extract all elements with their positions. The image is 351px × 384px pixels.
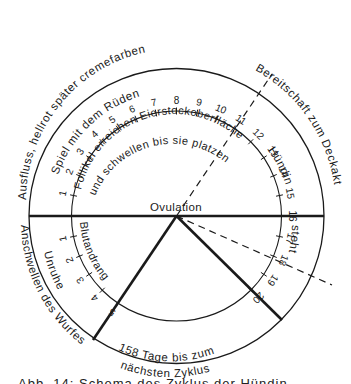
- wedge-line-right: [177, 216, 283, 320]
- tick-mark: [70, 236, 77, 237]
- tick-label: 8: [174, 95, 180, 106]
- label-mating-readiness: Bereitschaft zum Deckakt: [254, 61, 344, 186]
- tick-mark: [276, 195, 283, 196]
- tick-mark: [70, 195, 77, 196]
- tick-mark: [261, 156, 267, 160]
- tick-mark: [276, 236, 283, 237]
- label-blood-congestion: Blutandrang: [78, 221, 112, 282]
- tick-label: 4: [88, 292, 100, 304]
- tick-mark: [261, 272, 267, 276]
- estrous-cycle-diagram: 123456789101112131415161234517181920 Aus…: [0, 0, 351, 384]
- dashed-line-lower: [177, 216, 333, 285]
- tick-label: 15: [284, 187, 297, 200]
- tick-label: 19: [265, 273, 281, 289]
- figure-caption: Abb. 14: Schema des Zyklus der Hündin: [18, 377, 348, 384]
- label-next-cycle-line1: 158 Tage bis zum: [117, 341, 216, 364]
- tick-label: 3: [74, 275, 86, 286]
- tick-label: 2: [63, 167, 75, 177]
- label-bitch: Hündin: [266, 144, 295, 186]
- tick-label: 1: [57, 189, 69, 197]
- tick-label: 1: [57, 234, 69, 242]
- tick-label: 2: [63, 255, 75, 265]
- tick-label: 4: [89, 128, 101, 140]
- ovulation-label: Ovulation: [150, 201, 202, 213]
- tick-label: 16: [287, 210, 298, 222]
- tick-mark: [86, 272, 92, 276]
